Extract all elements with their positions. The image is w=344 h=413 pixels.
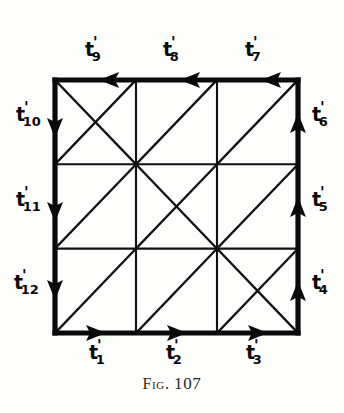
diagonal-r0c1-anti (136, 80, 217, 164)
member-sub-t2: 2 (173, 352, 182, 367)
member-label-t3: t'3 (246, 343, 269, 362)
member-sub-t5: 5 (319, 199, 328, 214)
member-sub-t11: 11 (23, 199, 41, 214)
member-sub-t3: 3 (253, 352, 262, 367)
member-label-t8: t'8 (163, 40, 186, 59)
diagonal-r0c2-anti (217, 80, 298, 164)
diagonal-r2c0-anti (55, 249, 136, 333)
member-sub-t4: 4 (319, 282, 328, 297)
diagonal-r1c0-anti (55, 164, 136, 248)
diagonal-r2c1-anti (136, 249, 217, 333)
member-label-t12: t'12 (14, 273, 46, 292)
member-label-t9: t'9 (85, 40, 108, 59)
member-label-t7: t'7 (245, 40, 268, 59)
member-sub-t6: 6 (319, 114, 328, 129)
member-label-t2: t'2 (166, 343, 189, 362)
figure-caption: Fig. 107 (0, 374, 344, 394)
member-sub-t9: 9 (92, 49, 101, 64)
caption-number: 107 (174, 374, 201, 393)
member-label-t10: t'10 (16, 105, 48, 124)
figure-107: t'9 t'8 t'7 t'10 t'11 t'12 t'6 t'5 t'4 t… (0, 0, 344, 413)
member-sub-t7: 7 (252, 49, 261, 64)
member-label-t6: t'6 (312, 105, 335, 124)
member-label-t5: t'5 (312, 190, 335, 209)
member-label-t4: t'4 (312, 273, 335, 292)
member-sub-t8: 8 (170, 49, 179, 64)
member-sub-t10: 10 (23, 114, 41, 129)
diagonal-r1c2-anti (217, 164, 298, 248)
member-label-t11: t'11 (16, 190, 48, 209)
member-sub-t12: 12 (21, 282, 39, 297)
member-sub-t1: 1 (96, 352, 105, 367)
cell-diagonals (55, 80, 298, 333)
member-label-t1: t'1 (89, 343, 112, 362)
caption-prefix: Fig. (143, 375, 170, 392)
